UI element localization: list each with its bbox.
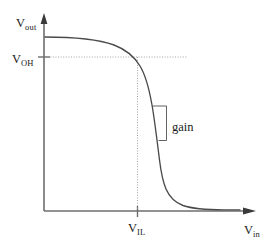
x-axis-label-base: V	[244, 223, 253, 237]
vtc-curve-path	[45, 37, 240, 210]
vil-label-base: V	[128, 221, 137, 235]
y-axis-arrowhead	[41, 13, 48, 24]
vtc-figure: Vout VOH VIL Vin gain	[0, 0, 276, 245]
y-axis-label-base: V	[16, 16, 25, 30]
vtc-plot-svg	[0, 0, 276, 245]
x-axis-arrowhead	[243, 207, 256, 214]
voh-label-sub: OH	[21, 58, 34, 68]
voh-label-base: V	[12, 52, 21, 66]
x-axis-label: Vin	[244, 221, 260, 237]
y-axis-label: Vout	[16, 14, 37, 30]
voh-label: VOH	[12, 50, 34, 66]
y-axis-label-sub: out	[25, 22, 36, 32]
gain-annotation-label: gain	[172, 118, 194, 134]
vil-label: VIL	[128, 219, 145, 235]
gain-label-text: gain	[172, 120, 194, 134]
vil-label-sub: IL	[137, 227, 145, 237]
x-axis-label-sub: in	[253, 229, 260, 239]
